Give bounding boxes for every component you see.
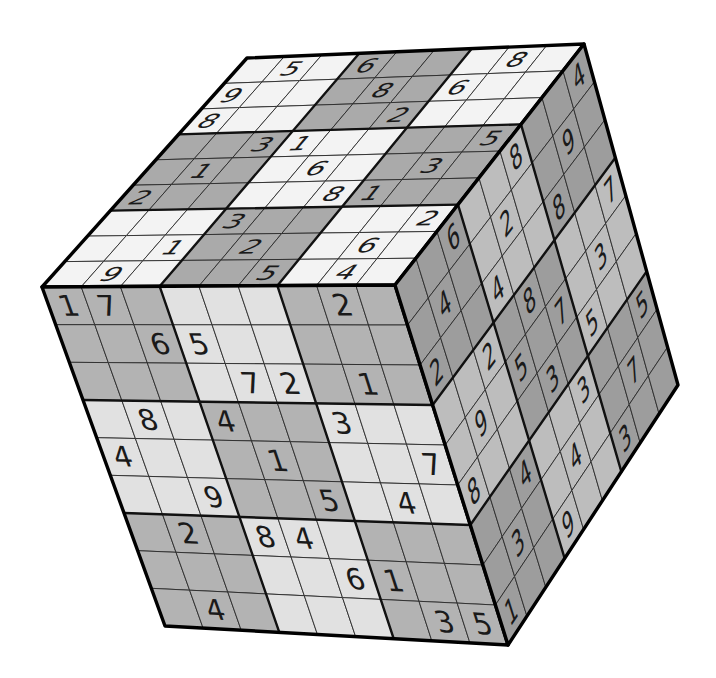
sudoku-cube-illustration: Sudoku Cube 5689868231516328132126954 17… <box>0 0 716 678</box>
cube-svg: Sudoku Cube 5689868231516328132126954 17… <box>0 0 716 678</box>
